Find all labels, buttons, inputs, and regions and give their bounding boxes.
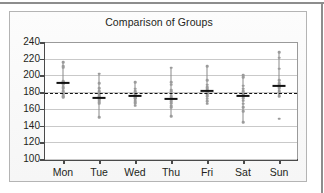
mean-marker-sat (237, 94, 250, 96)
y-tick-mark-140 (40, 126, 45, 128)
y-tick-label-140: 140 (14, 121, 40, 131)
data-point (206, 65, 209, 68)
data-point (242, 103, 245, 106)
data-point (62, 96, 65, 99)
mean-marker-mon (57, 82, 70, 84)
figure-frame: Comparison of Groups 1001201401601802002… (0, 0, 324, 193)
data-point (62, 61, 65, 64)
data-point (170, 106, 173, 109)
data-point (170, 67, 173, 70)
plot-right-border (297, 42, 298, 160)
data-point (98, 82, 101, 85)
data-point (98, 87, 101, 90)
gridline-140 (45, 126, 297, 127)
x-tick-mark-sun (279, 160, 281, 164)
x-tick-label-fri: Fri (201, 166, 213, 178)
x-tick-mark-tue (99, 160, 101, 164)
y-tick-label-160: 160 (14, 104, 40, 114)
mean-marker-wed (129, 94, 142, 96)
x-tick-label-thu: Thu (162, 166, 180, 178)
chart-title: Comparison of Groups (10, 16, 308, 28)
y-tick-mark-240 (40, 42, 45, 44)
y-tick-label-100: 100 (14, 154, 40, 164)
data-point (242, 106, 245, 109)
data-point (206, 103, 209, 106)
data-point (134, 104, 137, 107)
x-tick-mark-wed (135, 160, 137, 164)
data-point (278, 67, 281, 70)
x-tick-label-wed: Wed (124, 166, 145, 178)
mean-marker-tue (93, 97, 106, 99)
y-tick-mark-200 (40, 75, 45, 77)
x-tick-mark-sat (243, 160, 245, 164)
y-tick-mark-180 (40, 92, 45, 94)
gridline-220 (45, 59, 297, 60)
mean-marker-thu (165, 98, 178, 100)
data-point (278, 118, 281, 121)
chart-container: Comparison of Groups 1001201401601802002… (9, 11, 307, 182)
data-point (98, 116, 101, 119)
data-point (278, 57, 281, 60)
data-point (242, 76, 245, 79)
x-tick-mark-thu (171, 160, 173, 164)
data-point (278, 95, 281, 98)
data-point (242, 99, 245, 102)
mean-marker-fri (201, 89, 214, 91)
data-point (98, 73, 101, 76)
plot-area (45, 42, 297, 159)
data-point (242, 110, 245, 113)
data-point (98, 103, 101, 106)
data-point (242, 121, 245, 124)
data-point (170, 83, 173, 86)
gridline-240 (45, 42, 297, 43)
frame-top-divider (0, 2, 324, 4)
data-point (206, 79, 209, 82)
y-tick-label-180: 180 (14, 87, 40, 97)
data-point (62, 67, 65, 70)
data-point (134, 81, 137, 84)
x-tick-mark-mon (63, 160, 65, 164)
y-axis-labels: 100120140160180200220240 (12, 12, 40, 183)
x-tick-label-mon: Mon (53, 166, 73, 178)
x-tick-label-sun: Sun (270, 166, 289, 178)
data-point (278, 51, 281, 54)
x-tick-label-tue: Tue (90, 166, 108, 178)
y-tick-label-120: 120 (14, 137, 40, 147)
y-tick-mark-120 (40, 142, 45, 144)
y-tick-label-200: 200 (14, 70, 40, 80)
y-tick-mark-220 (40, 59, 45, 61)
mean-marker-sun (273, 85, 286, 87)
y-tick-mark-160 (40, 109, 45, 111)
y-tick-mark-100 (40, 159, 45, 161)
data-point (170, 115, 173, 118)
y-tick-label-240: 240 (14, 37, 40, 47)
x-tick-label-sat: Sat (235, 166, 251, 178)
y-tick-label-220: 220 (14, 54, 40, 64)
data-point (242, 84, 245, 87)
gridline-120 (45, 142, 297, 143)
reference-line (45, 93, 297, 94)
x-tick-mark-fri (207, 160, 209, 164)
frame-right-divider (321, 2, 323, 193)
